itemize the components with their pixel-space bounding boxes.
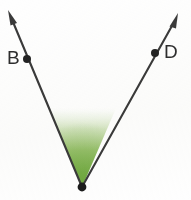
angle-diagram-canvas (0, 0, 191, 200)
angle-diagram-figure: B D (0, 0, 191, 200)
ray-vertex-to-B (8, 10, 82, 187)
point-label-b: B (7, 48, 20, 67)
vertex-dot (78, 183, 87, 192)
point-dot-D (151, 49, 159, 57)
ray-vertex-to-D (82, 13, 178, 187)
point-dot-B (23, 55, 31, 63)
point-label-d: D (164, 42, 178, 61)
angle-interior-shading (48, 106, 117, 187)
arrowhead-left (8, 10, 17, 26)
arrowhead-right (170, 13, 179, 29)
